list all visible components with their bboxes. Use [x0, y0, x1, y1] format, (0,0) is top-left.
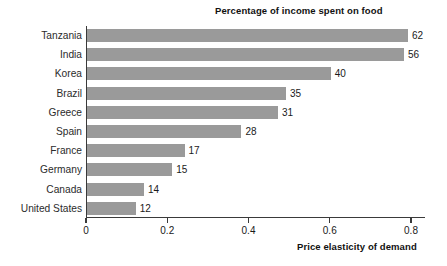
category-label: Korea: [55, 64, 82, 83]
x-tick-mark: [167, 218, 168, 223]
bar-chart-figure: Percentage of income spent on food 00.20…: [0, 0, 447, 266]
bar-row: Spain28: [0, 122, 447, 141]
category-label: Spain: [56, 122, 82, 141]
x-axis-title: Price elasticity of demand: [297, 241, 417, 252]
x-tick-mark: [410, 218, 411, 223]
x-tick-label: 0.4: [242, 225, 256, 236]
bar-value-label: 40: [335, 67, 346, 80]
bar: [87, 163, 172, 176]
bar-row: Greece31: [0, 103, 447, 122]
bar-row: Germany15: [0, 160, 447, 179]
x-tick-label: 0.6: [323, 225, 337, 236]
category-label: Germany: [40, 160, 82, 179]
bar-row: United States12: [0, 199, 447, 218]
category-label: India: [60, 45, 82, 64]
x-tick-label: 0.8: [404, 225, 418, 236]
bar-row: France17: [0, 141, 447, 160]
bar-value-label: 28: [245, 125, 256, 138]
bar-value-label: 14: [148, 183, 159, 196]
bar: [87, 202, 136, 215]
category-label: Greece: [49, 103, 82, 122]
bar: [87, 183, 144, 196]
bar: [87, 125, 241, 138]
bar: [87, 67, 331, 80]
bar: [87, 29, 408, 42]
bar-value-label: 15: [176, 163, 187, 176]
bar-row: Brazil35: [0, 84, 447, 103]
bar-row: Canada14: [0, 180, 447, 199]
category-label: United States: [21, 199, 82, 218]
x-tick-mark: [85, 218, 86, 223]
x-tick-mark: [329, 218, 330, 223]
bar: [87, 144, 185, 157]
series-title: Percentage of income spent on food: [215, 5, 383, 16]
bar-value-label: 17: [189, 144, 200, 157]
bar-value-label: 12: [140, 202, 151, 215]
category-label: Canada: [46, 180, 82, 199]
bar-value-label: 56: [408, 48, 419, 61]
x-tick-mark: [248, 218, 249, 223]
bar-value-label: 62: [412, 29, 423, 42]
bar-row: India56: [0, 45, 447, 64]
bar-row: Korea40: [0, 64, 447, 83]
bar-row: Tanzania62: [0, 26, 447, 45]
category-label: Brazil: [57, 84, 82, 103]
category-label: France: [50, 141, 82, 160]
bar: [87, 106, 278, 119]
bar: [87, 87, 286, 100]
bar-value-label: 31: [282, 106, 293, 119]
category-label: Tanzania: [41, 26, 82, 45]
x-tick-label: 0: [83, 225, 89, 236]
bar-value-label: 35: [290, 87, 301, 100]
bar: [87, 48, 404, 61]
x-tick-label: 0.2: [160, 225, 174, 236]
